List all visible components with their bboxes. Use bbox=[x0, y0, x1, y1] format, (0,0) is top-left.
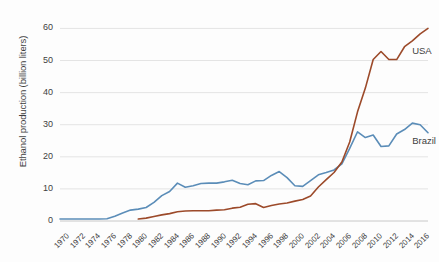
ethanol-production-line-chart: Ethanol production (billion liters) 0102… bbox=[0, 0, 439, 262]
series-label-usa: USA bbox=[412, 45, 432, 56]
y-tick-label: 60 bbox=[27, 22, 53, 32]
series-lines bbox=[60, 28, 428, 219]
gridlines bbox=[60, 28, 428, 221]
y-tick-label: 30 bbox=[27, 119, 53, 129]
series-line-brazil bbox=[60, 123, 428, 219]
y-tick-label: 10 bbox=[27, 183, 53, 193]
series-label-brazil: Brazil bbox=[412, 135, 436, 146]
y-tick-label: 20 bbox=[27, 151, 53, 161]
y-tick-label: 0 bbox=[27, 215, 53, 225]
plot-canvas bbox=[0, 0, 439, 262]
y-tick-label: 40 bbox=[27, 87, 53, 97]
series-line-usa bbox=[138, 28, 428, 219]
y-tick-label: 50 bbox=[27, 55, 53, 65]
